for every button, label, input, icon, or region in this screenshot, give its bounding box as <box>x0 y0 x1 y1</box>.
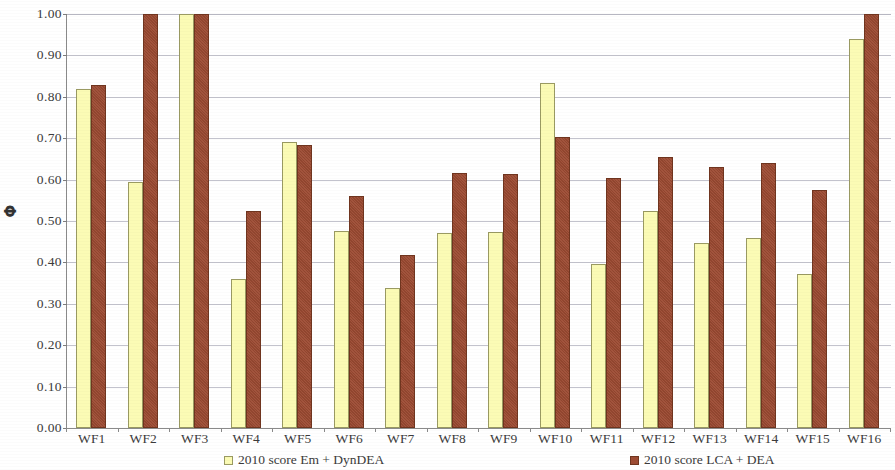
legend-swatch-icon-series-a <box>224 456 233 465</box>
x-axis-tick-label: WF7 <box>375 431 427 447</box>
bar-chart: Φ 0.000.100.200.300.400.500.600.700.800.… <box>0 0 895 470</box>
bar-wf7-series-a <box>385 288 400 428</box>
x-axis-tick-label: WF12 <box>633 431 685 447</box>
bar-groups <box>67 14 891 428</box>
bar-wf2-series-a <box>128 182 143 428</box>
bar-wf9-series-b <box>503 174 518 428</box>
bar-group <box>840 14 892 428</box>
bar-group <box>67 14 119 428</box>
x-axis-tick-label: WF16 <box>839 431 891 447</box>
bar-group <box>119 14 171 428</box>
bar-wf6-series-a <box>334 231 349 428</box>
legend-label-series-a: 2010 score Em + DynDEA <box>238 452 384 468</box>
bar-wf14-series-a <box>746 238 761 428</box>
y-axis-tick-label: 0.30 <box>16 296 62 312</box>
x-axis-tick-label: WF5 <box>272 431 324 447</box>
bar-group <box>170 14 222 428</box>
bar-wf12-series-b <box>658 157 673 428</box>
y-axis-tick-labels: 0.000.100.200.300.400.500.600.700.800.90… <box>16 0 62 440</box>
bar-wf1-series-a <box>76 89 91 428</box>
bar-wf14-series-b <box>761 163 776 428</box>
chart-legend: 2010 score Em + DynDEA 2010 score LCA + … <box>0 452 895 470</box>
x-axis-tick-label: WF15 <box>787 431 839 447</box>
bar-group <box>737 14 789 428</box>
bar-wf2-series-b <box>143 14 158 428</box>
bar-wf3-series-b <box>194 14 209 428</box>
bar-wf13-series-b <box>709 167 724 428</box>
bar-wf13-series-a <box>694 243 709 428</box>
x-axis-tick-mark <box>890 428 891 432</box>
x-axis-tick-label: WF4 <box>221 431 273 447</box>
x-axis-tick-label: WF13 <box>684 431 736 447</box>
y-axis-tick-label: 0.90 <box>16 47 62 63</box>
bar-wf10-series-a <box>540 83 555 428</box>
plot-area <box>66 14 891 429</box>
y-axis-tick-label: 0.80 <box>16 89 62 105</box>
bar-group <box>685 14 737 428</box>
bar-group <box>428 14 480 428</box>
legend-swatch-icon-series-b <box>630 456 639 465</box>
bar-group <box>531 14 583 428</box>
bar-wf4-series-b <box>246 211 261 428</box>
bar-wf10-series-b <box>555 137 570 428</box>
bar-wf8-series-b <box>452 173 467 428</box>
bar-group <box>788 14 840 428</box>
y-axis-tick-label: 0.70 <box>16 130 62 146</box>
x-axis-tick-label: WF1 <box>66 431 118 447</box>
bar-group <box>273 14 325 428</box>
bar-wf4-series-a <box>231 279 246 428</box>
bar-wf6-series-b <box>349 196 364 428</box>
x-axis-tick-labels: WF1WF2WF3WF4WF5WF6WF7WF8WF9WF10WF11WF12W… <box>66 431 890 453</box>
bar-group <box>325 14 377 428</box>
bar-group <box>222 14 274 428</box>
y-axis-tick-label: 0.10 <box>16 379 62 395</box>
bar-group <box>376 14 428 428</box>
y-axis-tick-label: 1.00 <box>16 6 62 22</box>
bar-wf16-series-a <box>849 39 864 428</box>
y-axis-tick-label: 0.50 <box>16 213 62 229</box>
bar-wf16-series-b <box>864 14 879 428</box>
legend-item-series-a: 2010 score Em + DynDEA <box>224 452 384 468</box>
bar-wf3-series-a <box>179 14 194 428</box>
x-axis-tick-label: WF10 <box>530 431 582 447</box>
y-axis-tick-label: 0.20 <box>16 337 62 353</box>
bar-group <box>582 14 634 428</box>
x-axis-tick-label: WF3 <box>169 431 221 447</box>
bar-wf5-series-a <box>282 142 297 428</box>
bar-group <box>634 14 686 428</box>
bar-group <box>479 14 531 428</box>
x-axis-tick-label: WF9 <box>478 431 530 447</box>
y-axis-tick-label: 0.60 <box>16 172 62 188</box>
legend-item-series-b: 2010 score LCA + DEA <box>630 452 775 468</box>
bar-wf7-series-b <box>400 255 415 428</box>
x-axis-tick-label: WF8 <box>427 431 479 447</box>
bar-wf12-series-a <box>643 211 658 428</box>
y-axis-tick-label: 0.00 <box>16 420 62 436</box>
legend-label-series-b: 2010 score LCA + DEA <box>644 452 775 468</box>
x-axis-tick-label: WF6 <box>324 431 376 447</box>
x-axis-tick-label: WF14 <box>736 431 788 447</box>
bar-wf8-series-a <box>437 233 452 428</box>
x-axis-tick-label: WF2 <box>118 431 170 447</box>
x-axis-tick-label: WF11 <box>581 431 633 447</box>
bar-wf15-series-b <box>812 190 827 428</box>
bar-wf5-series-b <box>297 145 312 428</box>
bar-wf9-series-a <box>488 232 503 428</box>
bar-wf1-series-b <box>91 85 106 428</box>
bar-wf11-series-b <box>606 178 621 428</box>
bar-wf11-series-a <box>591 264 606 428</box>
bar-wf15-series-a <box>797 274 812 428</box>
y-axis-tick-label: 0.40 <box>16 254 62 270</box>
